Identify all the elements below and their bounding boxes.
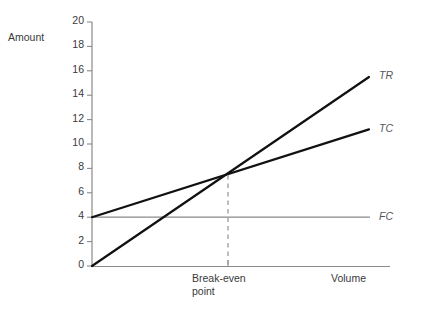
y-tick-label-0: 0 — [58, 259, 84, 271]
series-line-tr — [92, 77, 369, 266]
y-tick-label-6: 6 — [58, 186, 84, 198]
y-tick-label-16: 16 — [58, 64, 84, 76]
series-label-tr: TR — [379, 70, 393, 82]
y-tick-label-10: 10 — [58, 137, 84, 149]
break-even-chart: Amount 20 18 16 14 12 10 8 6 4 2 0 TR TC… — [0, 0, 424, 310]
series-label-fc: FC — [379, 211, 393, 223]
series-line-tc — [92, 129, 369, 217]
y-tick-label-12: 12 — [58, 113, 84, 125]
y-tick-label-14: 14 — [58, 88, 84, 100]
y-tick-label-8: 8 — [58, 161, 84, 173]
y-axis-ticks — [87, 22, 92, 266]
y-axis-title: Amount — [8, 32, 44, 44]
y-tick-label-4: 4 — [58, 210, 84, 222]
break-even-label-line1: Break-even — [192, 273, 246, 285]
y-tick-label-20: 20 — [58, 15, 84, 27]
break-even-label-line2: point — [192, 286, 215, 298]
x-axis-title: Volume — [331, 273, 366, 285]
y-tick-label-2: 2 — [58, 235, 84, 247]
series-label-tc: TC — [379, 123, 393, 135]
y-tick-label-18: 18 — [58, 39, 84, 51]
